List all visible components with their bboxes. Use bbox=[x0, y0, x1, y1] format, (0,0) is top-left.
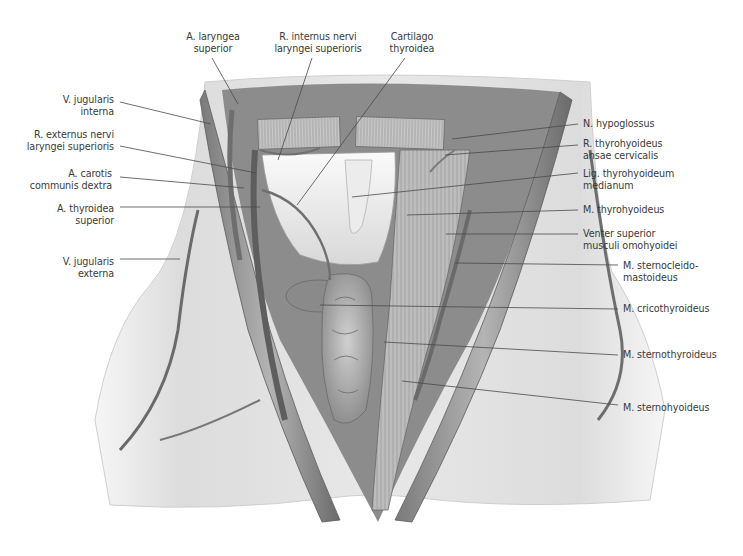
label-m-sternohyoideus: M. sternohyoideus bbox=[623, 402, 709, 414]
leader-r-externus bbox=[120, 146, 256, 173]
leader-v-jugularis-interna bbox=[120, 102, 211, 124]
leader-lig bbox=[352, 173, 578, 197]
label-m-sternothyroideus: M. sternothyroideus bbox=[623, 349, 717, 361]
label-venter-superior: Venter superior musculi omohyoidei bbox=[583, 228, 677, 252]
label-cartilago-thyroidea: Cartilago thyroidea bbox=[382, 31, 442, 55]
leader-m-thyrohyoideus bbox=[407, 210, 578, 215]
label-r-thyrohyoideus: R. thyrohyoideus ansae cervicalis bbox=[583, 138, 662, 162]
label-m-cricothyroideus: M. cricothyroideus bbox=[623, 303, 709, 315]
leader-cartilago bbox=[297, 58, 405, 205]
label-m-sternocleidomastoideus: M. sternocleido- mastoideus bbox=[623, 260, 698, 284]
label-n-hypoglossus: N. hypoglossus bbox=[583, 118, 654, 130]
leader-m-cricothyroideus bbox=[320, 305, 618, 309]
label-a-laryngea-superior: A. laryngea superior bbox=[177, 31, 249, 55]
label-a-carotis-communis: A. carotis communis dextra bbox=[4, 168, 112, 192]
leader-m-scm bbox=[455, 263, 618, 265]
label-r-externus-nervi: R. externus nervi laryngei superioris bbox=[4, 129, 114, 153]
label-a-thyroidea-superior: A. thyroidea superior bbox=[4, 203, 114, 227]
leader-r-thyrohyoideus bbox=[445, 145, 578, 155]
label-lig-thyrohyoideum: Lig. thyrohyoideum medianum bbox=[583, 168, 674, 192]
leader-a-carotis bbox=[120, 177, 244, 188]
leader-m-sternohyoideus bbox=[402, 381, 618, 405]
label-m-thyrohyoideus: M. thyrohyoideus bbox=[583, 204, 664, 216]
anatomy-figure: A. laryngea superior R. internus nervi l… bbox=[0, 0, 743, 556]
leader-a-laryngea-superior bbox=[212, 58, 238, 104]
leader-m-sternothyroideus bbox=[384, 342, 618, 355]
leader-r-internus bbox=[278, 58, 312, 160]
leader-n-hypoglossus bbox=[452, 124, 578, 139]
label-r-internus-nervi: R. internus nervi laryngei superioris bbox=[268, 31, 368, 55]
label-v-jugularis-externa: V. jugularis externa bbox=[4, 256, 114, 280]
label-v-jugularis-interna: V. jugularis interna bbox=[4, 94, 114, 118]
